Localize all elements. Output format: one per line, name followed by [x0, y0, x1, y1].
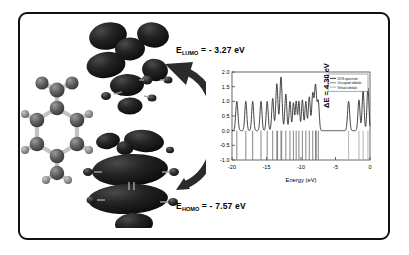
- x-tick-label: -15: [263, 164, 271, 170]
- y-tick-label: 1.0: [222, 98, 230, 104]
- homo-label-unit: eV: [233, 201, 246, 211]
- lumo-label-equals: = -: [198, 45, 214, 55]
- legend-label-occupied-orbitals: Occupied orbitals: [338, 81, 362, 85]
- gap-delta: ΔE: [322, 98, 331, 108]
- gap-unit: eV: [322, 63, 331, 74]
- y-tick-label: -1.0: [220, 157, 229, 163]
- lumo-label-subscript: LUMO: [182, 50, 198, 56]
- homo-lumo-gap-label: ΔE = 4.30 eV: [322, 63, 331, 108]
- homo-label-equals: = -: [199, 201, 215, 211]
- x-tick-label: -20: [228, 164, 236, 170]
- gap-value: 4.30: [322, 74, 331, 89]
- x-tick-label: -5: [333, 164, 338, 170]
- lumo-energy-label: ELUMO = - 3.27 eV: [176, 45, 245, 56]
- y-tick-label: -0.5: [220, 142, 229, 148]
- homo-label-value: 7.57: [215, 201, 232, 211]
- x-tick-label: 0: [368, 164, 371, 170]
- figure-canvas: ELUMO = - 3.27 eV EHOMO = - 7.57 eV -20-…: [0, 0, 409, 255]
- y-tick-label: 2.0: [222, 69, 230, 75]
- gap-equals: =: [322, 89, 331, 98]
- dos-spectrum-chart: -20-15-10-50-1.0-0.50.00.51.01.52.0Energ…: [206, 64, 376, 186]
- y-tick-label: 1.5: [222, 84, 230, 90]
- x-tick-label: -10: [297, 164, 305, 170]
- homo-energy-label: EHOMO = - 7.57 eV: [176, 201, 246, 212]
- lumo-label-value: 3.27: [214, 45, 231, 55]
- homo-label-subscript: HOMO: [182, 206, 199, 212]
- legend-label-dos-spectrum: DOS spectrum: [338, 77, 359, 81]
- x-axis-label: Energy (eV): [286, 177, 317, 183]
- y-tick-label: 0.0: [222, 128, 230, 134]
- y-tick-label: 0.5: [222, 113, 230, 119]
- lumo-label-unit: eV: [232, 45, 245, 55]
- legend-label-virtual-orbitals: Virtual orbitals: [338, 86, 358, 90]
